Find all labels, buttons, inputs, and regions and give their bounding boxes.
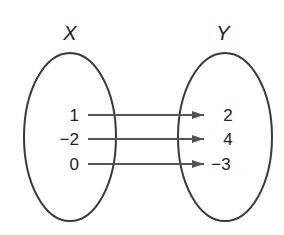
range-element: 2 <box>223 106 232 125</box>
range-element: −3 <box>211 155 230 174</box>
domain-element: 1 <box>70 106 79 125</box>
mapping-diagram: X Y 1 −2 0 2 4 −3 <box>0 0 284 235</box>
set-y-label: Y <box>216 22 231 44</box>
set-x-label: X <box>62 22 77 44</box>
range-element: 4 <box>223 130 232 149</box>
domain-element: 0 <box>70 155 79 174</box>
domain-element: −2 <box>60 130 79 149</box>
